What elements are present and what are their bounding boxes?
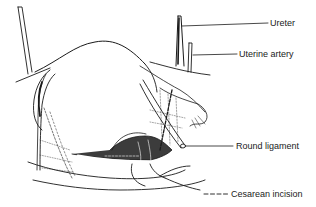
left-adnexa	[33, 70, 75, 178]
incision-site	[72, 133, 172, 166]
label-round-ligament: Round ligament	[236, 141, 299, 151]
leader-uterine-artery	[193, 54, 237, 55]
label-cesarean-incision: Cesarean incision	[231, 189, 303, 199]
label-uterine-artery: Uterine artery	[239, 49, 294, 59]
bladder-flap	[28, 162, 205, 190]
left-vessel	[18, 7, 32, 74]
label-ureter: Ureter	[270, 18, 295, 28]
uterine-artery-structure	[188, 43, 192, 72]
ureter-structure	[176, 16, 184, 66]
anatomical-diagram: Ureter Uterine artery Round ligament Ces…	[0, 0, 316, 207]
uterus	[35, 41, 157, 92]
illustration	[0, 0, 316, 207]
leader-ureter	[182, 23, 268, 26]
